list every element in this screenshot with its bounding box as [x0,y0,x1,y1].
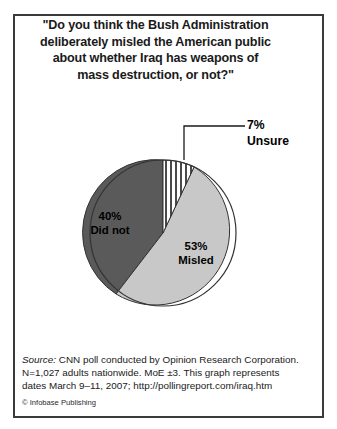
source-text-1: CNN poll conducted by Opinion Research C… [59,354,299,365]
source-line-2: N=1,027 adults nationwide. MoE ±3. This … [22,366,307,379]
did-not-percent: 40% [62,210,158,224]
misled-name: Misled [148,254,244,268]
source-line-3: dates March 9–11, 2007; http://pollingre… [22,379,307,392]
source-prefix: Source: [22,354,56,365]
pie-chart-figure: "Do you think the Bush Administration de… [0,0,337,429]
unsure-percent: 7% [247,118,321,134]
slice-label-unsure: 7% Unsure [247,118,321,149]
pie-chart-svg [0,0,337,330]
source-note: Source: CNN poll conducted by Opinion Re… [22,353,307,393]
did-not-name: Did not [62,224,158,238]
misled-percent: 53% [148,240,244,254]
unsure-name: Unsure [247,134,321,150]
chart-area: 40% Did not 53% Misled 7% Unsure [0,0,311,330]
unsure-leader-line [184,126,245,160]
slice-label-did-not: 40% Did not [62,210,158,237]
source-line-1: Source: CNN poll conducted by Opinion Re… [22,353,307,366]
publisher-credit: © Infobase Publishing [22,398,96,408]
slice-label-misled: 53% Misled [148,240,244,267]
